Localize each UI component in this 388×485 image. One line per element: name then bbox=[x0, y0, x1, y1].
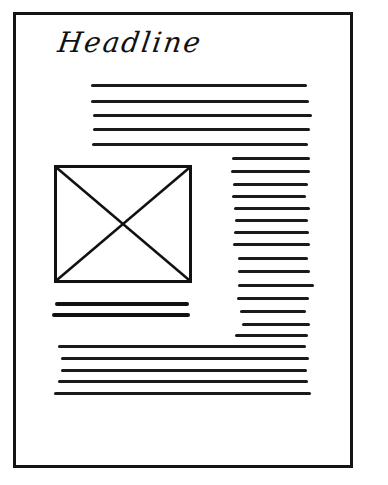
text-line bbox=[234, 231, 309, 234]
text-line bbox=[233, 243, 310, 246]
text-line bbox=[238, 270, 310, 273]
text-line bbox=[91, 84, 307, 87]
text-line bbox=[237, 297, 309, 300]
text-line bbox=[91, 100, 309, 103]
text-line bbox=[231, 170, 310, 173]
text-line bbox=[233, 183, 308, 186]
caption-line bbox=[55, 302, 189, 306]
text-line bbox=[234, 207, 310, 210]
text-line bbox=[242, 323, 310, 326]
text-line bbox=[235, 334, 308, 337]
headline-text: Headline bbox=[56, 26, 205, 59]
text-line bbox=[61, 357, 309, 360]
image-placeholder-x-icon bbox=[57, 168, 189, 280]
text-line bbox=[235, 219, 308, 222]
caption-line bbox=[52, 313, 190, 317]
text-line bbox=[238, 284, 314, 287]
image-placeholder bbox=[54, 165, 192, 283]
text-line bbox=[92, 143, 308, 146]
text-line bbox=[232, 195, 306, 198]
text-line bbox=[58, 380, 308, 383]
text-line bbox=[58, 345, 306, 348]
text-line bbox=[240, 310, 306, 313]
text-line bbox=[93, 114, 312, 117]
text-line bbox=[232, 157, 310, 160]
text-line bbox=[61, 369, 307, 372]
text-line bbox=[54, 392, 311, 395]
text-line bbox=[238, 257, 308, 260]
text-line bbox=[93, 128, 310, 131]
